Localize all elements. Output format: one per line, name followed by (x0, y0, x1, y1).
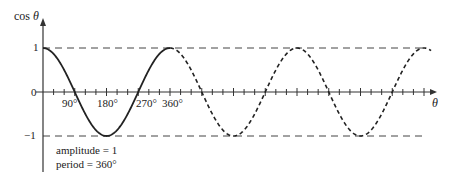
y-tick-1: 1 (33, 42, 39, 53)
x-axis-label: θ (432, 97, 438, 109)
y-tick-0: 0 (31, 87, 37, 98)
y-axis-arrow-icon (40, 18, 46, 26)
x-tick-270: 270° (136, 98, 157, 109)
y-axis-label: cos θ (14, 10, 39, 22)
x-tick-90: 90° (62, 98, 77, 109)
x-axis-arrow-icon (430, 89, 437, 95)
x-tick-360: 360° (162, 98, 183, 109)
x-tick-180: 180° (97, 98, 118, 109)
y-tick-minus-1: −1 (24, 130, 36, 141)
y-axis-label-var: θ (33, 9, 39, 23)
amplitude-annotation: amplitude = 1 (56, 145, 117, 156)
y-axis-label-text: cos (14, 9, 33, 23)
period-annotation: period = 360° (56, 159, 117, 170)
